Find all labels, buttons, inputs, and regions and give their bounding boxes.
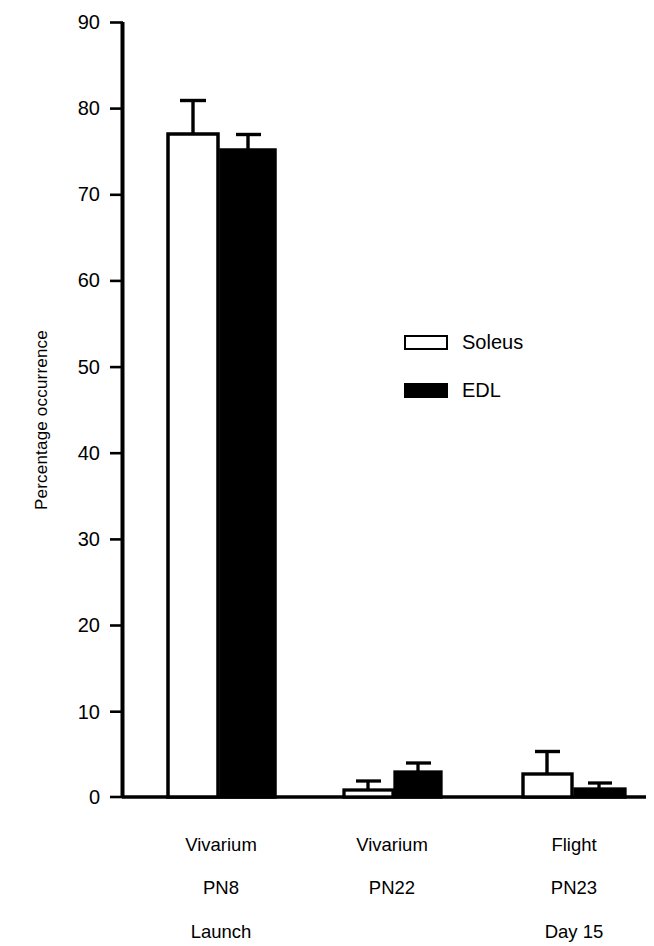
errorbar-edl-vivarium-pn8	[236, 133, 261, 150]
y-tick-label-10: 10	[36, 702, 100, 722]
x-group-label-line2: PN22	[312, 877, 472, 899]
legend-item-edl: EDL	[404, 380, 501, 400]
x-group-label-line1: Flight	[494, 834, 654, 856]
legend-item-soleus: Soleus	[404, 332, 523, 352]
errorbar-soleus-flight-pn23	[535, 750, 560, 774]
x-group-label-flight-pn23: Flight PN23 Day 15	[494, 812, 654, 946]
errorbar-soleus-vivarium-pn8	[180, 99, 206, 134]
y-tick-label-90: 90	[36, 12, 100, 32]
x-group-label-line2: PN23	[494, 877, 654, 899]
bar-soleus-vivarium-pn8	[168, 134, 218, 797]
bar-edl-flight-pn23	[575, 789, 625, 797]
y-tick-label-60: 60	[36, 270, 100, 290]
bar-soleus-vivarium-pn22	[344, 790, 393, 797]
legend-swatch-open-icon	[404, 335, 448, 350]
x-group-label-line1: Vivarium	[312, 834, 472, 856]
y-tick-label-0: 0	[36, 787, 100, 807]
legend-label-edl: EDL	[462, 380, 501, 400]
x-group-label-line1: Vivarium	[141, 834, 301, 856]
bar-edl-vivarium-pn8	[221, 150, 275, 797]
bar-soleus-flight-pn23	[523, 774, 572, 797]
x-group-label-vivarium-pn22: Vivarium PN22	[312, 812, 472, 921]
y-tick-label-20: 20	[36, 615, 100, 635]
x-group-label-vivarium-pn8: Vivarium PN8 Launch	[141, 812, 301, 946]
y-axis-title: Percentage occurrence	[32, 290, 52, 550]
x-group-label-line2: PN8	[141, 877, 301, 899]
x-group-label-line3: Day 15	[494, 921, 654, 943]
bar-edl-vivarium-pn22	[395, 772, 441, 797]
y-tick-label-70: 70	[36, 184, 100, 204]
y-tick-label-80: 80	[36, 98, 100, 118]
legend-swatch-filled-icon	[404, 383, 448, 398]
legend-label-soleus: Soleus	[462, 332, 523, 352]
x-group-label-line3: Launch	[141, 921, 301, 943]
